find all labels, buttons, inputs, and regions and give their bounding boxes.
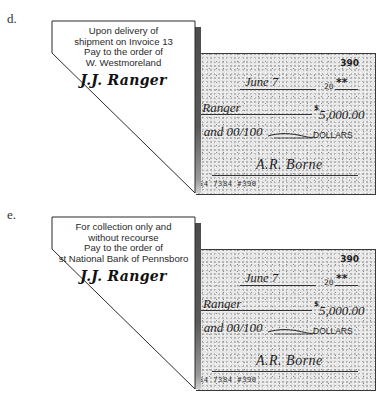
endorsement-line: For collection only and <box>52 222 195 233</box>
panel-d: d. 390 June 7 20 ** s Ranger $ 5,000.00 … <box>0 0 390 200</box>
endorsement-text: For collection only and without recourse… <box>52 222 195 264</box>
endorser-signature: J.J. Ranger <box>52 268 195 284</box>
panel-e: e. 390 June 7 20 ** e Ranger $ 5,000.00 … <box>0 196 390 396</box>
endorsement-line: W. Westmoreland <box>52 58 195 69</box>
endorsement-text: Upon delivery of shipment on Invoice 13 … <box>52 26 195 68</box>
endorsement-line: Upon delivery of <box>52 26 195 37</box>
endorser-signature: J.J. Ranger <box>52 72 195 88</box>
endorsement-line: st National Bank of Pennsboro <box>52 254 195 265</box>
